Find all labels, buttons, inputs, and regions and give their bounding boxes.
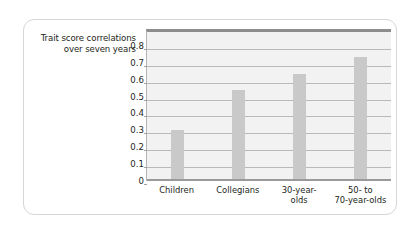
bar-slot [269, 32, 330, 181]
y-axis-tick-labels: 0.80.70.60.50.40.30.20.10 [120, 36, 144, 181]
x-axis-baseline [147, 179, 391, 182]
y-tick-label: 0.3 [120, 126, 144, 135]
x-tick-label: Children [146, 185, 207, 205]
y-tick-label: 0.4 [120, 109, 144, 118]
y-tick-label: 0.7 [120, 58, 144, 67]
bar[interactable] [232, 90, 245, 181]
y-tick-label: 0.5 [120, 92, 144, 101]
bar-chart: Trait score correlations over seven year… [24, 20, 398, 216]
bar-slot [330, 32, 391, 181]
bar[interactable] [293, 74, 306, 181]
y-tick-label: 0 [120, 177, 144, 186]
bar[interactable] [354, 57, 367, 181]
x-tick-label: 50- to 70-year-olds [330, 185, 391, 205]
y-tick-label: 0.8 [120, 41, 144, 50]
figure-card: Trait score correlations over seven year… [23, 19, 397, 215]
plot-area [146, 29, 391, 181]
bar-slot [147, 32, 208, 181]
y-tick-label: 0.6 [120, 75, 144, 84]
bar[interactable] [171, 130, 184, 182]
bar-slot [208, 32, 269, 181]
x-axis-tick-labels: ChildrenCollegians30-year- olds50- to 70… [146, 185, 391, 205]
x-tick-label: 30-year- olds [269, 185, 330, 205]
bars-group [147, 32, 391, 181]
x-tick-label: Collegians [207, 185, 268, 205]
y-tick-label: 0.2 [120, 143, 144, 152]
y-tick-label: 0.1 [120, 160, 144, 169]
